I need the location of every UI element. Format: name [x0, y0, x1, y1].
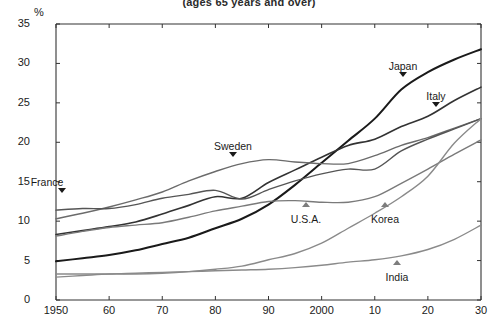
- pointer-triangle-up-icon: [302, 202, 310, 207]
- series-label-korea: Korea: [350, 213, 420, 225]
- y-tick-label: 25: [4, 96, 30, 108]
- x-tick-label: 80: [193, 304, 237, 316]
- pointer-triangle-down-icon: [58, 188, 66, 193]
- pointer-triangle-down-icon: [432, 102, 440, 107]
- x-tick-label: 10: [353, 304, 397, 316]
- x-tick-label: 1950: [34, 304, 78, 316]
- y-tick-label: 20: [4, 135, 30, 147]
- series-label-sweden: Sweden: [198, 140, 268, 152]
- series-label-japan: Japan: [368, 60, 438, 72]
- series-label-usa: U.S.A.: [271, 213, 341, 225]
- series-line-france: [56, 119, 481, 210]
- x-tick-label: 60: [87, 304, 131, 316]
- series-lines-group: [56, 49, 481, 277]
- pointer-triangle-down-icon: [399, 72, 407, 77]
- y-tick-label: 30: [4, 56, 30, 68]
- x-tick-label: 90: [247, 304, 291, 316]
- x-tick-label: 20: [406, 304, 450, 316]
- pointer-triangle-up-icon: [393, 260, 401, 265]
- y-tick-label: 0: [4, 293, 30, 305]
- x-tick-label: 70: [140, 304, 184, 316]
- x-tick-label: 30: [459, 304, 498, 316]
- x-tick-label: 2000: [300, 304, 344, 316]
- series-label-france: France: [12, 176, 82, 188]
- series-label-italy: Italy: [401, 90, 471, 102]
- series-line-india: [56, 225, 481, 274]
- series-line-japan: [56, 49, 481, 261]
- pointer-triangle-down-icon: [229, 152, 237, 157]
- y-tick-label: 5: [4, 254, 30, 266]
- y-tick-label: 10: [4, 214, 30, 226]
- chart-container: (ages 65 years and over) % 0510152025303…: [0, 0, 498, 326]
- y-tick-label: 35: [4, 17, 30, 29]
- pointer-triangle-up-icon: [381, 202, 389, 207]
- series-label-india: India: [362, 271, 432, 283]
